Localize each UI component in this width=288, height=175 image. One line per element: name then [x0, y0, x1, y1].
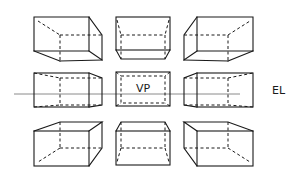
box-middle-center: VP	[116, 72, 170, 106]
box-top-left	[34, 17, 102, 61]
box-bottom-right	[184, 122, 253, 166]
vanishing-point-label: VP	[136, 82, 151, 95]
box-middle-right	[184, 73, 253, 107]
perspective-diagram: VP EL	[0, 0, 288, 175]
box-bottom-left	[34, 122, 102, 166]
box-top-center	[116, 17, 170, 59]
eye-level-label: EL	[272, 84, 286, 97]
box-top-right	[184, 17, 253, 61]
box-middle-left	[34, 73, 102, 107]
box-bottom-center	[116, 122, 170, 165]
